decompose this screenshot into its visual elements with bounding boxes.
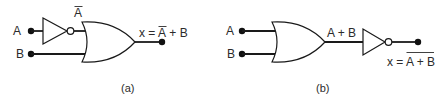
output-b-expression: x = A + B — [387, 53, 435, 70]
caption-b: (b) — [316, 82, 329, 94]
output-a-suffix: + B — [166, 26, 188, 40]
not-gate-icon — [43, 18, 67, 44]
or-gate-icon — [82, 22, 135, 62]
inverter-bubble-icon — [385, 39, 392, 46]
diagram-a: A A B x = A + B (a) — [13, 6, 188, 94]
or-output-label: A + B — [327, 26, 356, 40]
logic-diagrams: A A B x = A + B (a) A B A + B — [0, 0, 443, 98]
output-b-term: A + B — [406, 55, 435, 69]
input-a-label: A — [13, 24, 21, 38]
output-a-term: A — [158, 26, 166, 40]
input-b-label-b: B — [227, 47, 235, 61]
output-a-prefix: x = — [139, 26, 159, 40]
output-b-prefix: x = — [387, 55, 407, 69]
inverter-bubble-icon — [67, 28, 74, 35]
not-gate-icon — [363, 29, 385, 55]
abar-label: A — [74, 6, 82, 20]
input-b-label: B — [16, 47, 24, 61]
diagram-b: A B A + B x = A + B (b) — [226, 22, 435, 94]
or-gate-icon — [272, 22, 325, 62]
output-b-terminal — [415, 39, 421, 45]
output-a-expression: x = A + B — [139, 26, 188, 40]
input-a-label-b: A — [226, 24, 234, 38]
caption-a: (a) — [121, 82, 134, 94]
